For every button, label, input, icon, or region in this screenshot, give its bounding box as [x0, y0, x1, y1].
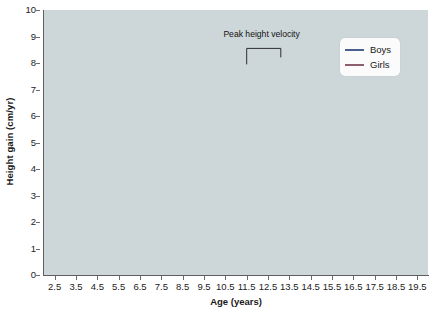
y-tick-mark	[36, 10, 40, 11]
x-tick-label: 7.5	[155, 282, 168, 292]
x-tick-mark	[55, 276, 56, 280]
x-tick-label: 16.5	[344, 282, 363, 292]
x-tick-mark	[375, 276, 376, 280]
y-tick-mark	[36, 90, 40, 91]
x-tick-label: 10.5	[216, 282, 235, 292]
x-tick-mark	[76, 276, 77, 280]
y-axis-ticks: 012345678910	[20, 0, 40, 282]
x-tick-label: 11.5	[238, 282, 256, 292]
x-tick-label: 19.5	[408, 282, 427, 292]
x-tick-mark	[247, 276, 248, 280]
x-tick-label: 9.5	[197, 282, 210, 292]
x-tick-mark	[353, 276, 354, 280]
x-tick-mark	[311, 276, 312, 280]
x-tick-label: 3.5	[69, 282, 82, 292]
x-tick-label: 4.5	[91, 282, 104, 292]
chart-legend: BoysGirls	[340, 38, 400, 76]
y-tick-mark	[36, 249, 40, 250]
y-tick-mark	[36, 196, 40, 197]
x-tick-label: 13.5	[280, 282, 299, 292]
legend-label: Boys	[370, 45, 391, 55]
y-tick-mark	[36, 116, 40, 117]
x-tick-mark	[396, 276, 397, 280]
x-tick-mark	[332, 276, 333, 280]
y-tick-label: 10	[25, 5, 36, 15]
x-tick-label: 5.5	[112, 282, 125, 292]
x-tick-label: 8.5	[176, 282, 189, 292]
legend-swatch-girls	[345, 64, 364, 66]
legend-label: Girls	[370, 60, 390, 70]
x-tick-mark	[204, 276, 205, 280]
x-tick-label: 18.5	[387, 282, 406, 292]
x-tick-label: 2.5	[48, 282, 61, 292]
y-tick-mark	[36, 37, 40, 38]
growth-velocity-chart: Height gain (cm/yr) 012345678910 2.53.54…	[0, 0, 440, 316]
legend-item-girls[interactable]: Girls	[345, 57, 391, 72]
y-tick-mark	[36, 143, 40, 144]
x-tick-label: 14.5	[301, 282, 320, 292]
x-tick-label: 12.5	[259, 282, 278, 292]
x-tick-mark	[268, 276, 269, 280]
y-tick-mark	[36, 169, 40, 170]
x-tick-mark	[225, 276, 226, 280]
x-tick-label: 15.5	[323, 282, 342, 292]
y-axis-title-label: Height gain (cm/yr)	[5, 97, 16, 185]
x-tick-label: 6.5	[133, 282, 146, 292]
legend-swatch-boys	[345, 49, 364, 51]
x-tick-mark	[289, 276, 290, 280]
y-tick-mark	[36, 63, 40, 64]
x-tick-mark	[119, 276, 120, 280]
legend-item-boys[interactable]: Boys	[345, 42, 391, 57]
y-tick-mark	[36, 275, 40, 276]
x-axis-title: Age (years)	[44, 296, 428, 307]
x-tick-mark	[140, 276, 141, 280]
y-tick-mark	[36, 222, 40, 223]
x-tick-label: 17.5	[365, 282, 384, 292]
x-tick-mark	[161, 276, 162, 280]
y-axis-title: Height gain (cm/yr)	[0, 0, 20, 282]
x-tick-mark	[97, 276, 98, 280]
x-tick-mark	[417, 276, 418, 280]
x-axis-line	[43, 275, 429, 276]
x-tick-mark	[183, 276, 184, 280]
